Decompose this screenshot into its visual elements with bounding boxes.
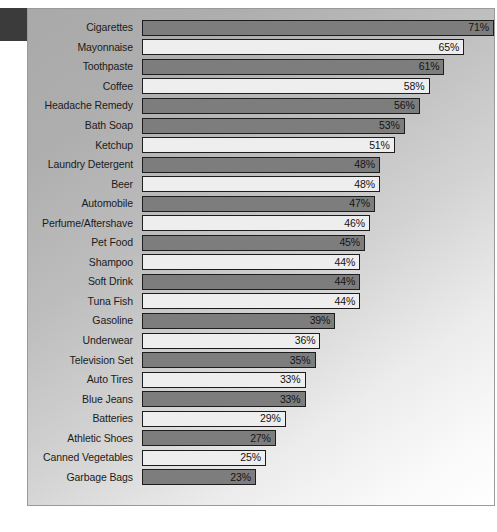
bar-track: 44% bbox=[142, 272, 494, 292]
bar-track: 44% bbox=[142, 292, 494, 312]
category-label: Garbage Bags bbox=[28, 472, 142, 483]
bar: 44% bbox=[142, 254, 360, 270]
bar-value-label: 39% bbox=[310, 315, 335, 326]
bar-row: Blue Jeans33% bbox=[28, 389, 494, 409]
bar: 48% bbox=[142, 157, 380, 173]
bar-track: 35% bbox=[142, 350, 494, 370]
bar-row: Laundry Detergent48% bbox=[28, 155, 494, 175]
bar-value-label: 44% bbox=[334, 257, 359, 268]
bar-track: 56% bbox=[142, 96, 494, 116]
bar-row: Tuna Fish44% bbox=[28, 292, 494, 312]
bar: 56% bbox=[142, 98, 420, 114]
bar-row: Bath Soap53% bbox=[28, 116, 494, 136]
bar-track: 53% bbox=[142, 116, 494, 136]
bar: 35% bbox=[142, 352, 316, 368]
bar-value-label: 33% bbox=[280, 374, 305, 385]
bar-track: 23% bbox=[142, 468, 494, 488]
bar: 29% bbox=[142, 411, 286, 427]
bar-row: Gasoline39% bbox=[28, 311, 494, 331]
bar: 27% bbox=[142, 430, 276, 446]
category-label: Batteries bbox=[28, 413, 142, 424]
bar: 45% bbox=[142, 235, 365, 251]
category-label: Athletic Shoes bbox=[28, 433, 142, 444]
bar-value-label: 45% bbox=[339, 237, 364, 248]
category-label: Laundry Detergent bbox=[28, 159, 142, 170]
category-label: Headache Remedy bbox=[28, 100, 142, 111]
bar-track: 45% bbox=[142, 233, 494, 253]
category-label: Underwear bbox=[28, 335, 142, 346]
bar-track: 46% bbox=[142, 213, 494, 233]
category-label: Beer bbox=[28, 179, 142, 190]
bar-value-label: 23% bbox=[230, 472, 255, 483]
bar-chart-figure: Cigarettes71%Mayonnaise65%Toothpaste61%C… bbox=[0, 0, 497, 532]
bar-track: 51% bbox=[142, 135, 494, 155]
category-label: Canned Vegetables bbox=[28, 452, 142, 463]
bar-track: 58% bbox=[142, 77, 494, 97]
bar: 58% bbox=[142, 78, 430, 94]
bar: 33% bbox=[142, 391, 306, 407]
category-label: Blue Jeans bbox=[28, 394, 142, 405]
bar-track: 61% bbox=[142, 57, 494, 77]
bar-value-label: 27% bbox=[250, 433, 275, 444]
bar: 47% bbox=[142, 196, 375, 212]
bar-value-label: 33% bbox=[280, 394, 305, 405]
bar-row: Ketchup51% bbox=[28, 135, 494, 155]
category-label: Tuna Fish bbox=[28, 296, 142, 307]
bar-rows-container: Cigarettes71%Mayonnaise65%Toothpaste61%C… bbox=[28, 9, 494, 505]
category-label: Cigarettes bbox=[28, 22, 142, 33]
bar-value-label: 44% bbox=[334, 296, 359, 307]
category-label: Television Set bbox=[28, 355, 142, 366]
bar-row: Pet Food45% bbox=[28, 233, 494, 253]
category-label: Toothpaste bbox=[28, 61, 142, 72]
bar-value-label: 51% bbox=[369, 140, 394, 151]
bar-track: 33% bbox=[142, 370, 494, 390]
bar-value-label: 61% bbox=[419, 61, 444, 72]
bar-value-label: 58% bbox=[404, 81, 429, 92]
bar-row: Coffee58% bbox=[28, 77, 494, 97]
bar-value-label: 71% bbox=[468, 22, 493, 33]
category-label: Bath Soap bbox=[28, 120, 142, 131]
bar-row: Toothpaste61% bbox=[28, 57, 494, 77]
bar-row: Batteries29% bbox=[28, 409, 494, 429]
bar-track: 65% bbox=[142, 38, 494, 58]
bar: 33% bbox=[142, 372, 306, 388]
bar: 36% bbox=[142, 333, 320, 349]
bar-row: Shampoo44% bbox=[28, 253, 494, 273]
category-label: Pet Food bbox=[28, 237, 142, 248]
bar-value-label: 53% bbox=[379, 120, 404, 131]
bar-value-label: 65% bbox=[439, 42, 464, 53]
bar-track: 44% bbox=[142, 253, 494, 273]
bar-row: Mayonnaise65% bbox=[28, 38, 494, 58]
corner-decoration-block bbox=[0, 8, 27, 41]
bar-track: 33% bbox=[142, 389, 494, 409]
bar: 39% bbox=[142, 313, 335, 329]
category-label: Coffee bbox=[28, 81, 142, 92]
category-label: Soft Drink bbox=[28, 276, 142, 287]
bar-value-label: 48% bbox=[354, 179, 379, 190]
plot-panel: Cigarettes71%Mayonnaise65%Toothpaste61%C… bbox=[27, 8, 495, 506]
bar-row: Television Set35% bbox=[28, 350, 494, 370]
category-label: Shampoo bbox=[28, 257, 142, 268]
bar-value-label: 46% bbox=[344, 218, 369, 229]
bar-value-label: 36% bbox=[295, 335, 320, 346]
bar: 51% bbox=[142, 137, 395, 153]
bar-value-label: 29% bbox=[260, 413, 285, 424]
category-label: Mayonnaise bbox=[28, 42, 142, 53]
category-label: Auto Tires bbox=[28, 374, 142, 385]
bar: 44% bbox=[142, 274, 360, 290]
bar-row: Headache Remedy56% bbox=[28, 96, 494, 116]
bar-row: Athletic Shoes27% bbox=[28, 428, 494, 448]
bar: 25% bbox=[142, 450, 266, 466]
bar-row: Canned Vegetables25% bbox=[28, 448, 494, 468]
bar-row: Perfume/Aftershave46% bbox=[28, 213, 494, 233]
bar-row: Automobile47% bbox=[28, 194, 494, 214]
bar: 23% bbox=[142, 469, 256, 485]
bar-row: Auto Tires33% bbox=[28, 370, 494, 390]
bar-track: 71% bbox=[142, 18, 494, 38]
bar-track: 36% bbox=[142, 331, 494, 351]
bar-value-label: 47% bbox=[349, 198, 374, 209]
bar: 46% bbox=[142, 215, 370, 231]
category-label: Automobile bbox=[28, 198, 142, 209]
bar: 53% bbox=[142, 118, 405, 134]
bar-track: 48% bbox=[142, 155, 494, 175]
